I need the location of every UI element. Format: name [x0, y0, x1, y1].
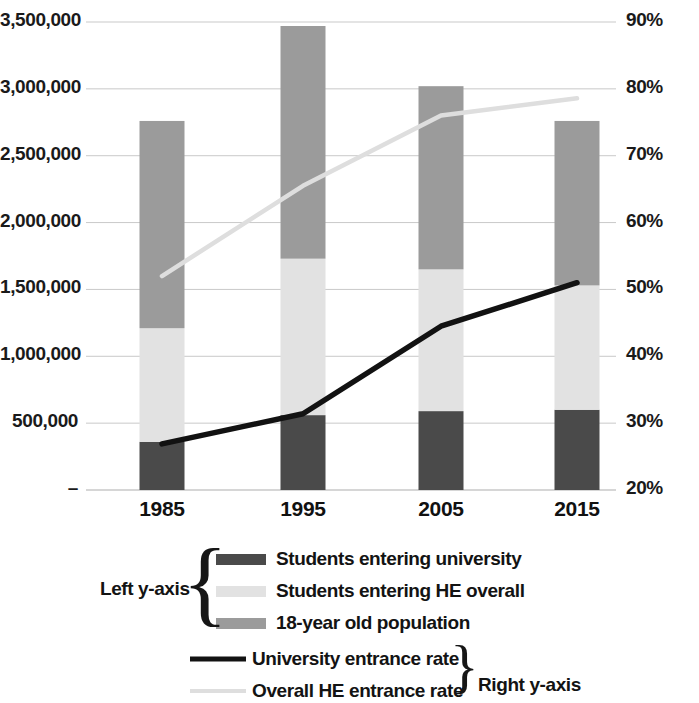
y-axis-right-tick-label: 20% [626, 477, 663, 499]
line-group [162, 98, 577, 444]
legend-line-icon [190, 644, 246, 674]
bar-segment-university [140, 442, 185, 490]
legend: Students entering universityStudents ent… [0, 532, 699, 703]
legend-line-icon [190, 676, 246, 703]
chart-root: –500,0001,000,0001,500,0002,000,0002,500… [0, 0, 699, 703]
legend-item[interactable]: 18-year old population [216, 608, 470, 638]
bar-segment-university [419, 411, 464, 490]
legend-item[interactable]: Students entering university [216, 544, 521, 574]
y-axis-left-tick-label: 3,000,000 [0, 76, 78, 98]
y-axis-left-tick-label: 2,000,000 [0, 210, 78, 232]
bar-group [140, 26, 600, 490]
bar-segment-university [281, 415, 326, 490]
y-axis-right-tick-label: 50% [626, 276, 663, 298]
y-axis-left-tick-label: 1,500,000 [0, 276, 78, 298]
y-axis-right-tick-label: 30% [626, 410, 663, 432]
legend-label: Overall HE entrance rate [252, 680, 463, 702]
legend-item[interactable]: Students entering HE overall [216, 576, 525, 606]
chart-svg [0, 0, 699, 530]
y-axis-left-tick-label: 500,000 [0, 410, 78, 432]
y-axis-right-tick-label: 40% [626, 343, 663, 365]
y-axis-left-tick-label: – [0, 477, 78, 499]
y-axis-left-tick-label: 3,500,000 [0, 9, 78, 31]
line-university-entrance-rate [162, 283, 577, 444]
bar-segment-he-overall [281, 259, 326, 415]
y-axis-right-tick-label: 90% [626, 9, 663, 31]
bar-segment-university [555, 410, 600, 490]
bar-segment-he-overall [419, 269, 464, 411]
x-axis-tick-label-1995: 1995 [253, 497, 353, 521]
left-axis-brace-label: Left y-axis [100, 578, 190, 600]
bar-segment-he-overall [140, 328, 185, 442]
legend-item[interactable]: University entrance rate [190, 644, 459, 674]
y-axis-right-tick-label: 80% [626, 76, 663, 98]
plot-area: –500,0001,000,0001,500,0002,000,0002,500… [0, 0, 699, 530]
legend-label: Students entering HE overall [276, 580, 525, 602]
y-axis-left-tick-label: 2,500,000 [0, 143, 78, 165]
bar-segment-population [281, 26, 326, 259]
bar-segment-population [140, 121, 185, 328]
x-axis-tick-label-1985: 1985 [112, 497, 212, 521]
legend-label: 18-year old population [276, 612, 470, 634]
line-overall-he-entrance-rate [162, 98, 577, 276]
right-axis-brace-label: Right y-axis [478, 674, 581, 696]
legend-label: Students entering university [276, 548, 521, 570]
legend-item[interactable]: Overall HE entrance rate [190, 676, 463, 703]
x-axis-tick-label-2005: 2005 [391, 497, 491, 521]
y-axis-right-tick-label: 70% [626, 143, 663, 165]
legend-label: University entrance rate [252, 648, 459, 670]
y-axis-left-tick-label: 1,000,000 [0, 343, 78, 365]
right-axis-brace: } [450, 636, 479, 696]
bar-segment-population [555, 121, 600, 285]
bar-segment-he-overall [555, 285, 600, 409]
x-axis-tick-label-2015: 2015 [527, 497, 627, 521]
y-axis-right-tick-label: 60% [626, 210, 663, 232]
